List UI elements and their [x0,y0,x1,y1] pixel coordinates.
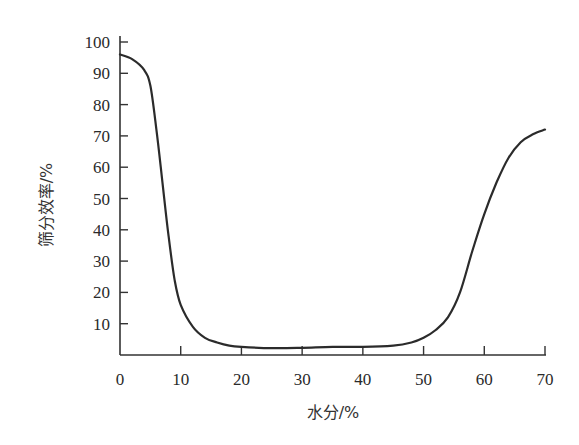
y-tick-label: 100 [85,33,111,52]
y-tick-label: 70 [93,127,110,146]
x-tick-label: 60 [476,370,493,389]
y-axis-title: 筛分效率/% [37,163,56,248]
efficiency-curve [120,55,545,349]
x-tick-label: 10 [172,370,189,389]
y-tick-label: 10 [93,315,110,334]
y-tick-label: 20 [93,283,110,302]
y-axis-ticks: 102030405060708090100 [85,33,129,334]
x-axis-ticks: 010203040506070 [116,346,554,389]
x-tick-label: 40 [354,370,371,389]
y-tick-label: 90 [93,64,110,83]
x-tick-label: 0 [116,370,125,389]
y-tick-label: 30 [93,252,110,271]
y-tick-label: 60 [93,158,110,177]
y-tick-label: 50 [93,190,110,209]
x-tick-label: 20 [233,370,250,389]
x-tick-label: 50 [415,370,432,389]
x-axis-title: 水分/% [307,403,360,422]
y-tick-label: 40 [93,221,110,240]
y-tick-label: 80 [93,96,110,115]
chart: 102030405060708090100 010203040506070 水分… [0,0,579,445]
x-tick-label: 30 [294,370,311,389]
x-tick-label: 70 [537,370,554,389]
